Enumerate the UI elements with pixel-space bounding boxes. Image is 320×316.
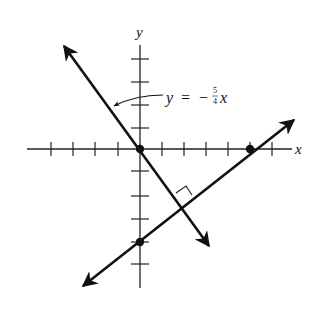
y-intercept-point xyxy=(136,238,144,246)
x-axis: x xyxy=(27,141,302,157)
equation-label: y = − 5 4 x xyxy=(164,86,227,107)
label-pointer-arrow xyxy=(114,95,163,106)
right-angle-marker xyxy=(176,186,192,195)
fraction-numerator: 5 xyxy=(213,86,217,95)
coordinate-diagram: x y y = − 5 4 x xyxy=(0,0,320,316)
origin-point xyxy=(136,145,144,153)
equation-equals: = xyxy=(181,89,190,106)
equation-variable: x xyxy=(219,89,227,106)
y-axis-label: y xyxy=(134,24,143,40)
given-line xyxy=(64,46,209,246)
perpendicular-line xyxy=(83,120,294,286)
y-axis: y xyxy=(131,24,149,288)
x-intercept-point xyxy=(246,145,254,153)
equation-sign: − xyxy=(199,89,208,106)
equation-lhs: y xyxy=(164,89,174,107)
fraction-denominator: 4 xyxy=(213,97,217,106)
x-axis-label: x xyxy=(294,141,302,157)
